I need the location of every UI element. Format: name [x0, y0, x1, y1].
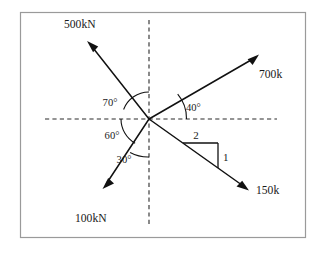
angle-label-70: 70°: [103, 97, 118, 108]
angle-label-40: 40°: [186, 102, 201, 113]
slope-rise-label: 1: [223, 151, 229, 163]
angle-label-60: 60°: [105, 130, 120, 141]
force-diagram-figure: 500kN 700k 150k 100kN 70° 60° 30° 40° 2 …: [0, 0, 321, 254]
force-label-150k: 150k: [256, 184, 279, 197]
figure-border: [21, 13, 306, 238]
force-label-500kn: 500kN: [64, 18, 96, 31]
force-label-100kn: 100kN: [75, 212, 107, 225]
angle-label-30: 30°: [117, 154, 132, 165]
force-label-700k: 700k: [259, 68, 282, 81]
force-diagram-canvas: 500kN 700k 150k 100kN 70° 60° 30° 40° 2 …: [0, 0, 321, 254]
slope-run-label: 2: [193, 129, 199, 141]
